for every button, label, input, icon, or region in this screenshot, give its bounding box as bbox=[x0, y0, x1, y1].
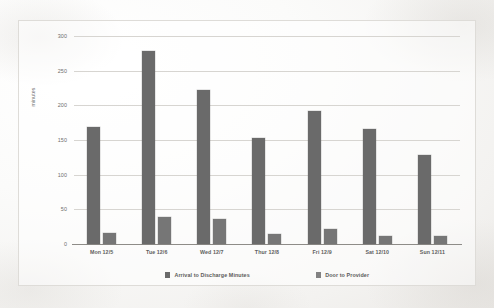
bar-groups: Mon 12/5Tue 12/6Wed 12/7Thur 12/8Fri 12/… bbox=[74, 36, 460, 244]
x-tick-label: Sat 12/10 bbox=[365, 249, 389, 255]
bar[interactable] bbox=[103, 233, 116, 244]
y-tick-label: 300 bbox=[58, 33, 67, 39]
bar-group: Tue 12/6 bbox=[129, 36, 184, 244]
chart-legend: Arrival to Discharge MinutesDoor to Prov… bbox=[74, 272, 460, 278]
bar-group: Wed 12/7 bbox=[184, 36, 239, 244]
legend-item[interactable]: Arrival to Discharge Minutes bbox=[165, 272, 250, 278]
bar[interactable] bbox=[379, 236, 392, 244]
bar[interactable] bbox=[308, 111, 321, 244]
y-tick-label: 50 bbox=[61, 206, 67, 212]
bar[interactable] bbox=[418, 155, 431, 244]
bar[interactable] bbox=[87, 127, 100, 244]
legend-label: Arrival to Discharge Minutes bbox=[174, 272, 249, 278]
y-tick-label: 250 bbox=[58, 68, 67, 74]
bar-group: Fri 12/9 bbox=[295, 36, 350, 244]
bar-group: Sun 12/11 bbox=[405, 36, 460, 244]
bar-group: Sat 12/10 bbox=[350, 36, 405, 244]
bar-group: Mon 12/5 bbox=[74, 36, 129, 244]
bar-group: Thur 12/8 bbox=[239, 36, 294, 244]
bar[interactable] bbox=[252, 138, 265, 244]
bar[interactable] bbox=[324, 229, 337, 244]
bar[interactable] bbox=[434, 236, 447, 244]
bar[interactable] bbox=[268, 234, 281, 244]
x-tick-label: Thur 12/8 bbox=[255, 249, 279, 255]
y-tick-label: 100 bbox=[58, 172, 67, 178]
legend-swatch-icon bbox=[316, 272, 322, 278]
y-axis-title: minutes bbox=[27, 67, 39, 127]
legend-swatch-icon bbox=[165, 272, 171, 278]
bar[interactable] bbox=[213, 219, 226, 244]
x-tick-label: Fri 12/9 bbox=[313, 249, 332, 255]
bar[interactable] bbox=[142, 51, 155, 244]
x-tick-label: Sun 12/11 bbox=[420, 249, 445, 255]
plot-area: 050100150200250300 Mon 12/5Tue 12/6Wed 1… bbox=[74, 36, 460, 244]
x-tick-label: Tue 12/6 bbox=[146, 249, 167, 255]
y-tick-label: 150 bbox=[58, 137, 67, 143]
bar[interactable] bbox=[158, 217, 171, 244]
legend-item[interactable]: Door to Provider bbox=[316, 272, 369, 278]
legend-label: Door to Provider bbox=[325, 272, 369, 278]
y-tick-label: 200 bbox=[58, 102, 67, 108]
chart-canvas: minutes 050100150200250300 Mon 12/5Tue 1… bbox=[0, 0, 494, 308]
x-tick-label: Wed 12/7 bbox=[200, 249, 224, 255]
bar[interactable] bbox=[197, 90, 210, 244]
y-tick-label: 0 bbox=[64, 241, 67, 247]
x-tick-label: Mon 12/5 bbox=[90, 249, 113, 255]
bar[interactable] bbox=[363, 129, 376, 244]
